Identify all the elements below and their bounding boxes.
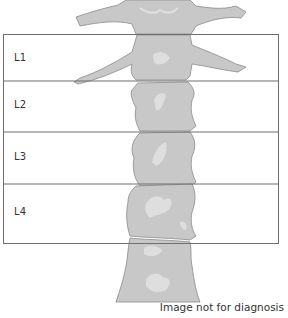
region-label-l1: L1 bbox=[14, 52, 26, 63]
l3-vertebra bbox=[132, 132, 196, 186]
l1-vertebra bbox=[74, 35, 246, 84]
disclaimer-text: Image not for diagnosis bbox=[160, 301, 284, 313]
spine-illustration bbox=[0, 0, 288, 318]
l4-vertebra bbox=[127, 184, 196, 240]
region-label-l4: L4 bbox=[14, 206, 26, 217]
region-label-l3: L3 bbox=[14, 151, 26, 162]
t12-vertebra bbox=[76, 0, 246, 34]
l2-vertebra bbox=[131, 82, 196, 131]
region-label-l2: L2 bbox=[14, 99, 26, 110]
l5-vertebra bbox=[116, 238, 200, 302]
